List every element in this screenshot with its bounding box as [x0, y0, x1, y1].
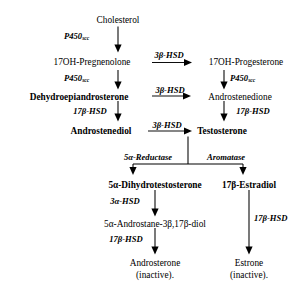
node-estrone-state: (inactive).: [230, 270, 268, 281]
node-17b-estradiol: 17β-Estradiol: [222, 180, 276, 191]
arrow-17oh-pregnenolone-to-dhea: [114, 70, 121, 90]
pathway-diagram: Cholesterol 17OH-Pregnenolone 17OH-Proge…: [0, 0, 304, 296]
arrow-cholesterol-to-17oh-pregnenolone: [114, 27, 121, 53]
enzyme-p450scc-progesterone: P450scc: [230, 73, 255, 85]
enzyme-scc-subscript: scc: [82, 77, 89, 83]
enzyme-p450-text: P450: [230, 73, 248, 83]
enzyme-scc-subscript: scc: [82, 35, 89, 41]
enzyme-p450scc-pregnenolone: P450scc: [64, 73, 89, 85]
arrow-17oh-pregnenolone-to-17oh-progesterone: [152, 59, 192, 66]
enzyme-p450scc-cholesterol: P450scc: [64, 31, 89, 43]
node-androstenedione: Androstenedione: [208, 92, 272, 103]
node-17oh-progesterone: 17OH-Progesterone: [209, 57, 283, 68]
enzyme-3a-hsd: 3α-HSD: [110, 196, 140, 206]
arrow-estradiol-to-estrone: [245, 190, 252, 255]
enzyme-17b-hsd-estradiol-estrone: 17β-HSD: [254, 213, 288, 223]
node-androsterone-state: (inactive).: [136, 270, 174, 281]
enzyme-3b-hsd-pregnenolone-progesterone: 3β-HSD: [154, 50, 183, 60]
arrow-dht-to-androstanediol: [151, 190, 158, 217]
pathway-connectors: [0, 0, 304, 296]
node-testosterone: Testosterone: [197, 126, 247, 137]
enzyme-17b-hsd-dhea-androstenediol: 17β-HSD: [73, 106, 107, 116]
node-cholesterol: Cholesterol: [97, 15, 140, 26]
node-androstanediol: 5α-Androstane-3β,17β-diol: [104, 219, 206, 230]
enzyme-p450-text: P450: [64, 31, 82, 41]
enzyme-p450-text: P450: [64, 73, 82, 83]
node-estrone: Estrone: [235, 258, 263, 269]
node-androsterone: Androsterone: [130, 258, 181, 269]
node-17oh-pregnenolone: 17OH-Pregnenolone: [54, 57, 131, 68]
node-dihydrotestosterone: 5α-Dihydrotestosterone: [108, 180, 201, 191]
arrow-dhea-to-androstenediol: [114, 101, 121, 122]
enzyme-5a-reductase: 5α-Reductase: [124, 152, 172, 162]
enzyme-17b-hsd-androstanediol-androsterone: 17β-HSD: [109, 234, 143, 244]
enzyme-3b-hsd-androstenediol-testosterone: 3β-HSD: [152, 120, 181, 130]
enzyme-17b-hsd-androstenedione-testosterone: 17β-HSD: [236, 106, 270, 116]
enzyme-scc-subscript: scc: [248, 77, 255, 83]
enzyme-aromatase: Aromatase: [207, 152, 245, 162]
arrow-androstenedione-to-testosterone: [220, 101, 227, 122]
node-androstenediol: Androstenediol: [71, 126, 132, 137]
node-dehydroepiandrosterone: Dehydroepiandrosterone: [30, 92, 129, 103]
enzyme-3b-hsd-dhea-androstenedione: 3β-HSD: [155, 85, 184, 95]
arrow-androstanediol-to-androsterone: [151, 228, 158, 255]
arrow-17oh-progesterone-to-androstenedione: [220, 70, 227, 90]
